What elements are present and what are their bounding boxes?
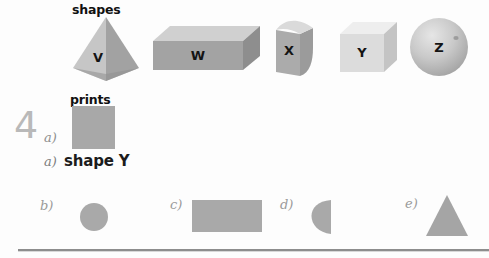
triangle-icon [425, 194, 469, 238]
question-number: 4 [14, 106, 38, 144]
solid-v-pyramid: V [70, 16, 142, 84]
solid-y-cube: Y [338, 20, 400, 76]
question-part-label: a) [44, 130, 57, 145]
print-b-circle [80, 203, 108, 231]
print-e-option-letter: e) [405, 196, 418, 211]
worksheet-page: shapes V W X Y [0, 0, 489, 258]
shapes-heading: shapes [72, 2, 120, 17]
print-c-rectangle [192, 200, 262, 232]
print-b-option-letter: b) [40, 198, 53, 213]
solid-x-quarter-cylinder: X [272, 16, 316, 78]
solid-y-label: Y [340, 45, 384, 60]
solid-w-cuboid: W [150, 24, 262, 76]
print-a-square [72, 106, 115, 149]
solid-w-label: W [153, 48, 243, 63]
print-d-option-letter: d) [280, 197, 293, 212]
solid-z-sphere: Z [408, 16, 472, 80]
page-divider-shadow [18, 251, 489, 252]
answer-option-letter: a) [44, 154, 57, 169]
print-d-semicircle [305, 199, 333, 239]
answer-text: shape Y [64, 152, 129, 170]
print-e-triangle [425, 194, 469, 242]
print-c-option-letter: c) [170, 197, 182, 212]
solid-x-label: X [274, 43, 304, 58]
solid-v-label: V [70, 50, 126, 65]
semicircle-icon [305, 199, 333, 235]
prints-heading: prints [70, 92, 111, 107]
solid-z-label: Z [408, 40, 470, 55]
